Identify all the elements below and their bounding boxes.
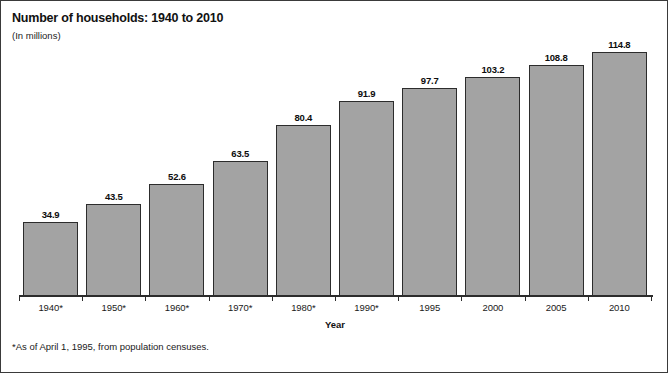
bar-value-label: 43.5 xyxy=(82,191,145,202)
bar xyxy=(339,101,394,296)
chart-figure: Number of households: 1940 to 2010 (In m… xyxy=(0,0,668,373)
bar xyxy=(465,77,520,296)
bar xyxy=(23,222,78,296)
tick-label: 2005 xyxy=(525,302,588,313)
bar-value-label: 63.5 xyxy=(209,148,272,159)
bar-group: 114.8 xyxy=(588,41,651,296)
tick-label: 1940* xyxy=(19,302,82,313)
bar-value-label: 91.9 xyxy=(335,88,398,99)
x-axis-tick-labels: 1940*1950*1960*1970*1980*1990*1995200020… xyxy=(19,302,651,313)
bar xyxy=(86,204,141,296)
bar-value-label: 34.9 xyxy=(19,209,82,220)
axis-tick xyxy=(398,297,399,301)
bar-value-label: 114.8 xyxy=(588,39,651,50)
bar xyxy=(213,161,268,296)
bar-group: 108.8 xyxy=(525,41,588,296)
bar-value-label: 52.6 xyxy=(145,171,208,182)
x-axis-ticks xyxy=(19,297,651,301)
bar-group: 80.4 xyxy=(272,41,335,296)
bar-value-label: 80.4 xyxy=(272,112,335,123)
bar-group: 43.5 xyxy=(82,41,145,296)
axis-tick xyxy=(145,297,146,301)
axis-tick xyxy=(525,297,526,301)
axis-tick xyxy=(209,297,210,301)
tick-label: 2010 xyxy=(588,302,651,313)
plot-area: 34.943.552.663.580.491.997.7103.2108.811… xyxy=(19,41,651,296)
axis-tick xyxy=(82,297,83,301)
axis-tick xyxy=(651,297,652,301)
bar-value-label: 108.8 xyxy=(525,52,588,63)
axis-tick xyxy=(19,297,20,301)
bar-value-label: 97.7 xyxy=(398,75,461,86)
axis-tick xyxy=(272,297,273,301)
tick-label: 1960* xyxy=(145,302,208,313)
tick-label: 1980* xyxy=(272,302,335,313)
tick-label: 1970* xyxy=(209,302,272,313)
bar xyxy=(149,184,204,296)
bar-group: 34.9 xyxy=(19,41,82,296)
bar-group: 91.9 xyxy=(335,41,398,296)
tick-label: 2000 xyxy=(461,302,524,313)
bar-series: 34.943.552.663.580.491.997.7103.2108.811… xyxy=(19,41,651,296)
chart-title: Number of households: 1940 to 2010 xyxy=(12,11,223,25)
bar-group: 97.7 xyxy=(398,41,461,296)
bar-group: 63.5 xyxy=(209,41,272,296)
chart-footnote: *As of April 1, 1995, from population ce… xyxy=(12,341,209,352)
tick-label: 1990* xyxy=(335,302,398,313)
bar xyxy=(529,65,584,296)
bar-group: 103.2 xyxy=(461,41,524,296)
tick-label: 1950* xyxy=(82,302,145,313)
axis-tick xyxy=(461,297,462,301)
chart-subtitle: (In millions) xyxy=(12,30,61,41)
bar xyxy=(592,52,647,296)
axis-tick xyxy=(588,297,589,301)
x-axis-title: Year xyxy=(1,319,668,330)
tick-label: 1995 xyxy=(398,302,461,313)
bar-value-label: 103.2 xyxy=(461,64,524,75)
axis-tick xyxy=(335,297,336,301)
bar xyxy=(276,125,331,296)
bar-group: 52.6 xyxy=(145,41,208,296)
bar xyxy=(402,88,457,296)
